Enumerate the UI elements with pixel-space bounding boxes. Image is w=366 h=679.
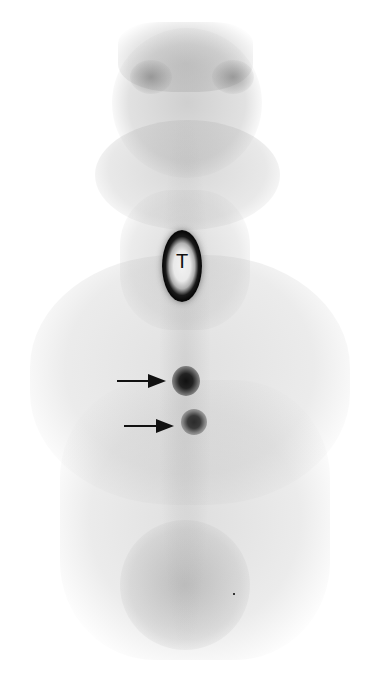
scan-image: T bbox=[0, 0, 366, 679]
upper-focal-uptake bbox=[172, 366, 200, 396]
artifact-speck bbox=[233, 593, 235, 595]
arrow-icon-lower bbox=[124, 425, 170, 427]
left-orbital-uptake bbox=[130, 60, 172, 94]
right-orbital-uptake bbox=[212, 60, 254, 94]
lower-focal-uptake bbox=[181, 409, 207, 435]
arrow-icon-upper bbox=[117, 380, 162, 382]
thyroid-label: T bbox=[170, 250, 194, 273]
